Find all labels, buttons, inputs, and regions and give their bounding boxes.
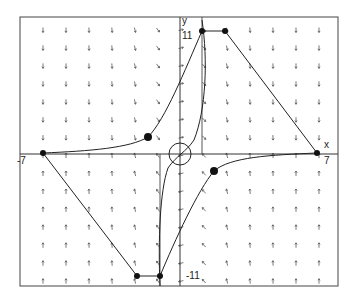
trajectory-point	[199, 28, 205, 34]
y-max-tick-label: 11	[182, 31, 192, 41]
trajectory-point	[222, 28, 228, 34]
x-axis-label: x	[324, 140, 329, 150]
direction-field-plot	[0, 0, 357, 303]
trajectory-point	[144, 133, 152, 141]
trajectory-point	[40, 150, 46, 156]
trajectory-right-curve	[160, 153, 317, 276]
trajectory-lower-left-polyline	[43, 153, 160, 276]
trajectory-upper-right-polyline	[202, 31, 317, 153]
x-min-tick-label: -7	[17, 156, 26, 166]
trajectory-point	[157, 273, 163, 279]
phase-portrait: y 11 x 7 -7 -11	[0, 0, 357, 303]
trajectory-point	[314, 150, 320, 156]
x-max-tick-label: 7	[324, 156, 330, 166]
y-axis-label: y	[182, 16, 187, 26]
trajectory-point	[134, 273, 140, 279]
y-min-tick-label: -11	[186, 271, 200, 281]
trajectory-point	[210, 167, 218, 175]
